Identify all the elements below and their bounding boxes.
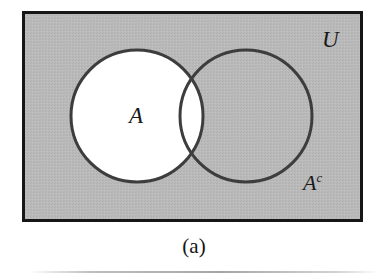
- set-a-complement-superscript: c: [316, 171, 322, 185]
- set-a-label: A: [129, 104, 143, 127]
- page-rule-artifact: [28, 271, 380, 273]
- venn-figure: U A Ac (a): [0, 0, 388, 279]
- set-a-complement-label: Ac: [303, 172, 322, 194]
- figure-caption: (a): [0, 234, 388, 259]
- set-a-complement-base: A: [303, 170, 316, 195]
- universal-set-label: U: [322, 28, 339, 51]
